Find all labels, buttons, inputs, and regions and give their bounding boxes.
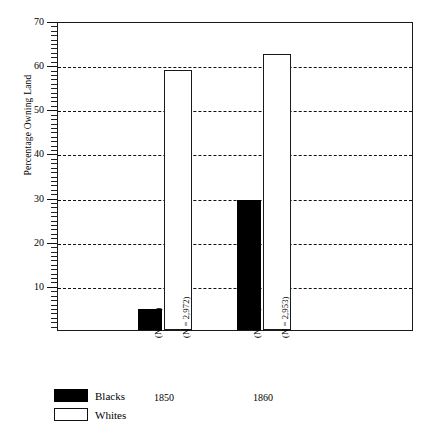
legend-label-blacks: Blacks	[95, 390, 125, 402]
y-axis: 70605040302010	[0, 0, 57, 437]
y-tick-major-20	[47, 243, 57, 244]
n-label-1860-blacks: (N = 37)	[252, 308, 262, 338]
legend: Blacks Whites	[54, 386, 126, 424]
n-label-1850-blacks: (N = 62)	[153, 308, 163, 338]
y-tick-label-10: 10	[18, 282, 44, 292]
y-tick-major-50	[47, 110, 57, 111]
n-label-1850-whites: (N = 2,972)	[181, 296, 191, 338]
bar-chart-figure: Percentage Owning Land 70605040302010 (N…	[0, 0, 426, 437]
bar-1850-whites	[164, 70, 192, 330]
gridline-30	[58, 200, 412, 201]
legend-item: Whites	[54, 405, 126, 424]
y-tick-major-60	[47, 66, 57, 67]
y-tick-major-40	[47, 154, 57, 155]
gridline-50	[58, 111, 412, 112]
y-tick-label-20: 20	[18, 238, 44, 248]
bar-1860-whites	[263, 54, 291, 330]
gridline-40	[58, 155, 412, 156]
legend-item: Blacks	[54, 386, 126, 405]
plot-area	[57, 22, 413, 331]
x-axis-group-label-1860: 1860	[238, 392, 288, 403]
gridline-10	[58, 288, 412, 289]
y-tick-label-60: 60	[18, 61, 44, 71]
y-tick-major-30	[47, 199, 57, 200]
gridline-20	[58, 244, 412, 245]
gridline-60	[58, 67, 412, 68]
legend-swatch-whites	[54, 408, 88, 421]
y-tick-major-10	[47, 287, 57, 288]
legend-label-whites: Whites	[95, 409, 126, 421]
y-tick-major-70	[47, 22, 57, 23]
y-tick-label-70: 70	[18, 17, 44, 27]
legend-swatch-blacks	[54, 389, 88, 402]
y-tick-label-30: 30	[18, 194, 44, 204]
n-label-1860-whites: (N = 2,953)	[280, 296, 290, 338]
y-tick-label-50: 50	[18, 105, 44, 115]
y-tick-label-40: 40	[18, 149, 44, 159]
x-axis-group-label-1850: 1850	[139, 392, 189, 403]
